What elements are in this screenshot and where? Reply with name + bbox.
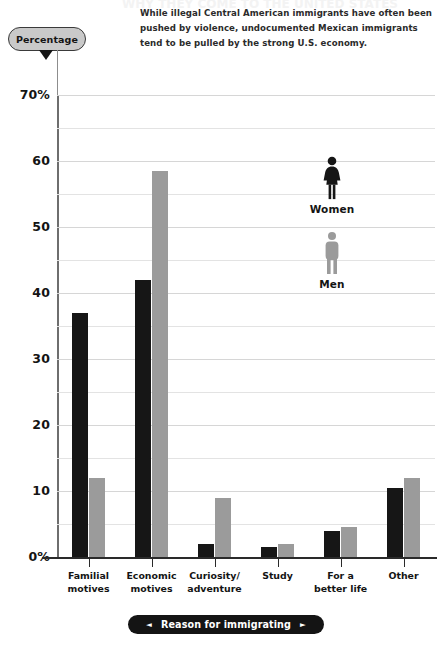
left-arrow-icon[interactable]: ◄: [146, 621, 152, 629]
gridline: [57, 194, 435, 195]
x-axis-tick: [404, 558, 405, 567]
bar-men[interactable]: [278, 544, 294, 557]
bar-group: [198, 95, 231, 557]
y-axis-tick-label: 60: [4, 153, 50, 168]
x-axis-tick: [341, 558, 342, 567]
legend-item-men: Men: [294, 231, 370, 290]
gridline: [57, 128, 435, 129]
gridline: [57, 227, 435, 228]
x-axis-tick-label-line: better life: [293, 583, 389, 596]
gridline: [57, 458, 435, 459]
x-axis-tick: [215, 558, 216, 567]
woman-figure-icon: [319, 156, 345, 200]
x-axis-line: [42, 557, 437, 559]
x-axis-banner-label: Reason for immigrating: [161, 619, 291, 630]
gridline: [57, 524, 435, 525]
caption-line: While illegal Central American immigrant…: [140, 6, 440, 21]
caption-line: pushed by violence, undocumented Mexican…: [140, 21, 440, 36]
bar-women[interactable]: [135, 280, 151, 557]
bar-group: [261, 95, 294, 557]
y-axis-tick-label: 20: [4, 417, 50, 432]
caption-text: While illegal Central American immigrant…: [140, 6, 440, 50]
gridline: [57, 425, 435, 426]
bar-women[interactable]: [72, 313, 88, 557]
plot-area: [57, 95, 435, 557]
bar-women[interactable]: [324, 531, 340, 557]
y-axis-label-badge: Percentage: [8, 27, 86, 51]
gridline: [57, 491, 435, 492]
x-axis-tick-label: Other: [356, 570, 448, 583]
gridline: [57, 260, 435, 261]
y-axis-badge-pointer-icon: [39, 50, 53, 60]
caption-line: tend to be pulled by the strong U.S. eco…: [140, 36, 440, 51]
bar-men[interactable]: [89, 478, 105, 557]
y-axis-tick-label: 70%: [4, 87, 50, 102]
x-axis-tick: [278, 558, 279, 567]
gridline: [57, 95, 435, 96]
gridline: [57, 293, 435, 294]
x-axis-tick-label-line: adventure: [167, 583, 263, 596]
legend: Women Men: [294, 156, 370, 306]
gridline: [57, 392, 435, 393]
bar-men[interactable]: [404, 478, 420, 557]
gridline: [57, 161, 435, 162]
bar-women[interactable]: [261, 547, 277, 557]
y-axis-badge-stem: [57, 50, 58, 96]
bar-men[interactable]: [215, 498, 231, 557]
y-axis-tick-label: 30: [4, 351, 50, 366]
x-axis-tick-label-line: Other: [356, 570, 448, 583]
y-axis-tick-label: 40: [4, 285, 50, 300]
bar-group: [135, 95, 168, 557]
y-axis-tick-label: 50: [4, 219, 50, 234]
right-arrow-icon[interactable]: ►: [300, 621, 306, 629]
bar-men[interactable]: [341, 527, 357, 557]
bar-group: [387, 95, 420, 557]
y-axis-tick-label: 10: [4, 483, 50, 498]
x-axis-tick: [89, 558, 90, 567]
gridline: [57, 359, 435, 360]
x-axis-tick: [152, 558, 153, 567]
legend-item-women: Women: [294, 156, 370, 215]
y-axis-tick-labels: 0%10203040506070%: [0, 95, 50, 557]
bar-men[interactable]: [152, 171, 168, 557]
gridline: [57, 326, 435, 327]
bar-group: [72, 95, 105, 557]
x-axis-label-banner: ◄ Reason for immigrating ►: [128, 615, 324, 634]
bar-women[interactable]: [387, 488, 403, 557]
bar-women[interactable]: [198, 544, 214, 557]
legend-label-men: Men: [294, 278, 370, 290]
man-figure-icon: [319, 231, 345, 275]
legend-label-women: Women: [294, 203, 370, 215]
